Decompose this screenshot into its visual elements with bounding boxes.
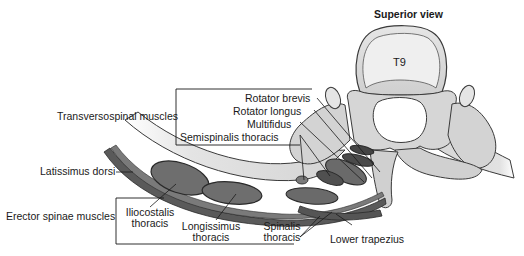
label-erector-spinae-muscles: Erector spinae muscles xyxy=(6,211,115,222)
label-rotator-brevis: Rotator brevis xyxy=(245,93,310,104)
label-spinalis-thoracis: Spinalis thoracis xyxy=(257,221,307,243)
label-longissimus-thoracis: Longissimus thoracis xyxy=(176,221,246,243)
label-iliocostalis-thoracis: Iliocostalis thoracis xyxy=(120,207,180,229)
longissimus-thoracis-muscle xyxy=(201,179,263,207)
vertebra-label: T9 xyxy=(393,57,406,68)
label-lower-trapezius: Lower trapezius xyxy=(330,234,404,245)
label-semispinalis-thoracis: Semispinalis thoracis xyxy=(180,132,279,143)
figure-title: Superior view xyxy=(374,8,443,20)
label-transversospinal-muscles: Transversospinal muscles xyxy=(57,111,178,122)
anatomy-diagram: Superior view T9 Transversospinal muscle… xyxy=(0,0,524,256)
label-rotator-longus: Rotator longus xyxy=(233,106,301,117)
label-latissimus-dorsi: Latissimus dorsi xyxy=(40,166,115,177)
label-multifidus: Multifidus xyxy=(247,119,291,130)
spinalis-thoracis-muscle xyxy=(285,186,338,206)
